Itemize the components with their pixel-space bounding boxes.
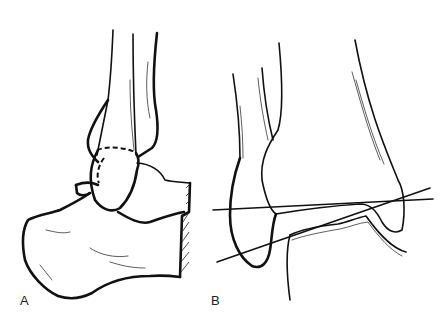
ankle-drawing-svg <box>0 0 447 321</box>
panel-a-drawing <box>23 30 190 298</box>
panel-label-b: B <box>211 293 220 308</box>
panel-b-drawing <box>213 40 433 300</box>
panel-label-a: A <box>20 293 29 308</box>
ankle-illustration-figure: A B <box>0 0 447 321</box>
